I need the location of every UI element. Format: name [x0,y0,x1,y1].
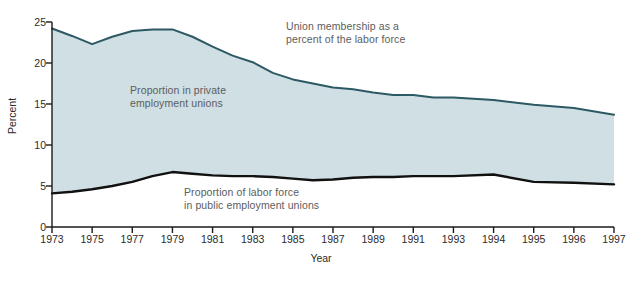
annotation-private-employment-unions: Proportion in private employment unions [130,84,226,110]
x-tick-label: 1991 [402,233,425,245]
y-axis-title: Percent [6,86,18,146]
y-tick-label: 15 [24,98,46,110]
x-tick-label: 1977 [121,233,144,245]
y-tick-label: 5 [24,180,46,192]
x-tick-label: 1994 [482,233,505,245]
x-tick-label: 1993 [442,233,465,245]
x-tick-label: 1997 [602,233,625,245]
y-tick-label: 10 [24,139,46,151]
x-tick-label: 1989 [361,233,384,245]
x-tick-label: 1973 [40,233,63,245]
x-axis-title: Year [0,252,642,264]
x-tick-label: 1987 [321,233,344,245]
annotation-total-union-membership: Union membership as a percent of the lab… [286,20,405,46]
y-tick-label: 0 [24,221,46,233]
x-tick-label: 1985 [281,233,304,245]
x-tick-label: 1996 [562,233,585,245]
x-tick-label: 1983 [241,233,264,245]
union-membership-area-chart: 0510152025 19731975197719791981198319851… [0,0,642,291]
x-tick-label: 1995 [522,233,545,245]
x-tick-label: 1979 [161,233,184,245]
y-tick-label: 25 [24,16,46,28]
y-tick-label: 20 [24,57,46,69]
x-tick-label: 1981 [201,233,224,245]
private-union-band [52,29,614,194]
x-tick-label: 1975 [80,233,103,245]
annotation-public-employment-unions: Proportion of labor force in public empl… [184,186,319,212]
y-axis-ticks [46,22,52,227]
